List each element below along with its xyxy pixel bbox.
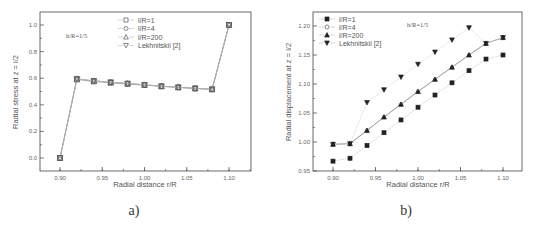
legend-label: l/R=4 [138, 25, 155, 32]
x-axis-label: Radial distance r/R [113, 180, 177, 189]
y-tick-label: 0.4 [29, 102, 38, 108]
x-tick-label: 0.90 [327, 175, 339, 181]
x-axis-label: Radial distance r/R [386, 180, 450, 189]
marker-square [433, 93, 437, 97]
x-tick-label: 0.90 [54, 175, 66, 181]
marker-square [325, 17, 329, 21]
legend-label: Lekhnitskii [2] [138, 42, 180, 50]
marker-square [450, 81, 454, 85]
marker-square [484, 57, 488, 61]
marker-square [416, 105, 420, 109]
x-tick-label: 1.05 [181, 175, 193, 181]
y-tick-label: 1.10 [298, 81, 310, 87]
x-tick-label: 1.10 [497, 175, 509, 181]
figure: 0.00.20.40.60.81.0 0.900.951.001.051.10 … [0, 0, 537, 227]
x-tick-label: 1.10 [223, 175, 235, 181]
marker-square [348, 156, 352, 160]
marker-square [382, 131, 386, 135]
legend-label: l/R=200 [138, 34, 162, 41]
y-tick-label: 0.2 [29, 128, 38, 134]
marker-square [399, 118, 403, 122]
panel-caption: a) [129, 203, 140, 219]
annotation-text: h/R=1/5 [66, 32, 87, 39]
marker-square [331, 159, 335, 163]
x-tick-label: 0.95 [96, 175, 108, 181]
chart-panel-a: 0.00.20.40.60.81.0 0.900.951.001.051.10 … [11, 12, 251, 219]
x-tick-label: 0.95 [370, 175, 382, 181]
legend-label: l/R=4 [339, 24, 356, 31]
annotation-text: h/R=1/5 [407, 21, 428, 28]
y-tick-label: 0.8 [29, 49, 38, 55]
chart-panel-b: 0.951.001.051.101.151.20 0.900.951.001.0… [284, 12, 522, 219]
legend-label: l/R=1 [339, 16, 356, 23]
y-tick-label: 1.05 [298, 110, 310, 116]
y-axis-label: Radial displacement at z = l/2 [284, 43, 293, 141]
legend-label: Lekhnitskii [2] [339, 40, 381, 48]
panel-caption: b) [400, 203, 412, 219]
marker-square [365, 143, 369, 147]
marker-square [467, 69, 471, 73]
y-tick-label: 1.00 [298, 139, 310, 145]
y-tick-label: 0.0 [29, 155, 38, 161]
y-tick-label: 1.20 [298, 23, 310, 29]
y-tick-label: 1.0 [29, 22, 38, 28]
y-axis-label: Radial stress at z = l/2 [11, 55, 20, 129]
y-tick-label: 0.95 [298, 168, 310, 174]
legend-label: l/R=200 [339, 32, 363, 39]
marker-square [501, 53, 505, 57]
x-tick-label: 1.05 [455, 175, 467, 181]
y-tick-label: 0.6 [29, 75, 38, 81]
legend-label: l/R=1 [138, 17, 155, 24]
y-tick-label: 1.15 [298, 52, 310, 58]
